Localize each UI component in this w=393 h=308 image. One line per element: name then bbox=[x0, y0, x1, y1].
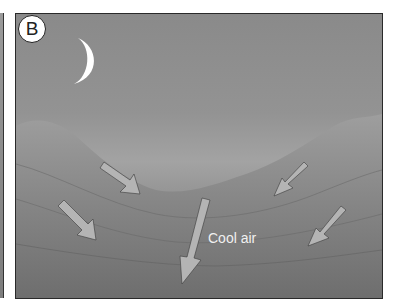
mountain-terrain bbox=[16, 114, 382, 298]
panel-b: B Cool air bbox=[15, 13, 383, 299]
adjacent-panel-edge bbox=[0, 13, 4, 298]
valley-illustration bbox=[16, 14, 382, 298]
panel-label-badge: B bbox=[18, 15, 46, 43]
cool-air-label: Cool air bbox=[208, 230, 256, 246]
crescent-moon-icon bbox=[74, 38, 94, 84]
